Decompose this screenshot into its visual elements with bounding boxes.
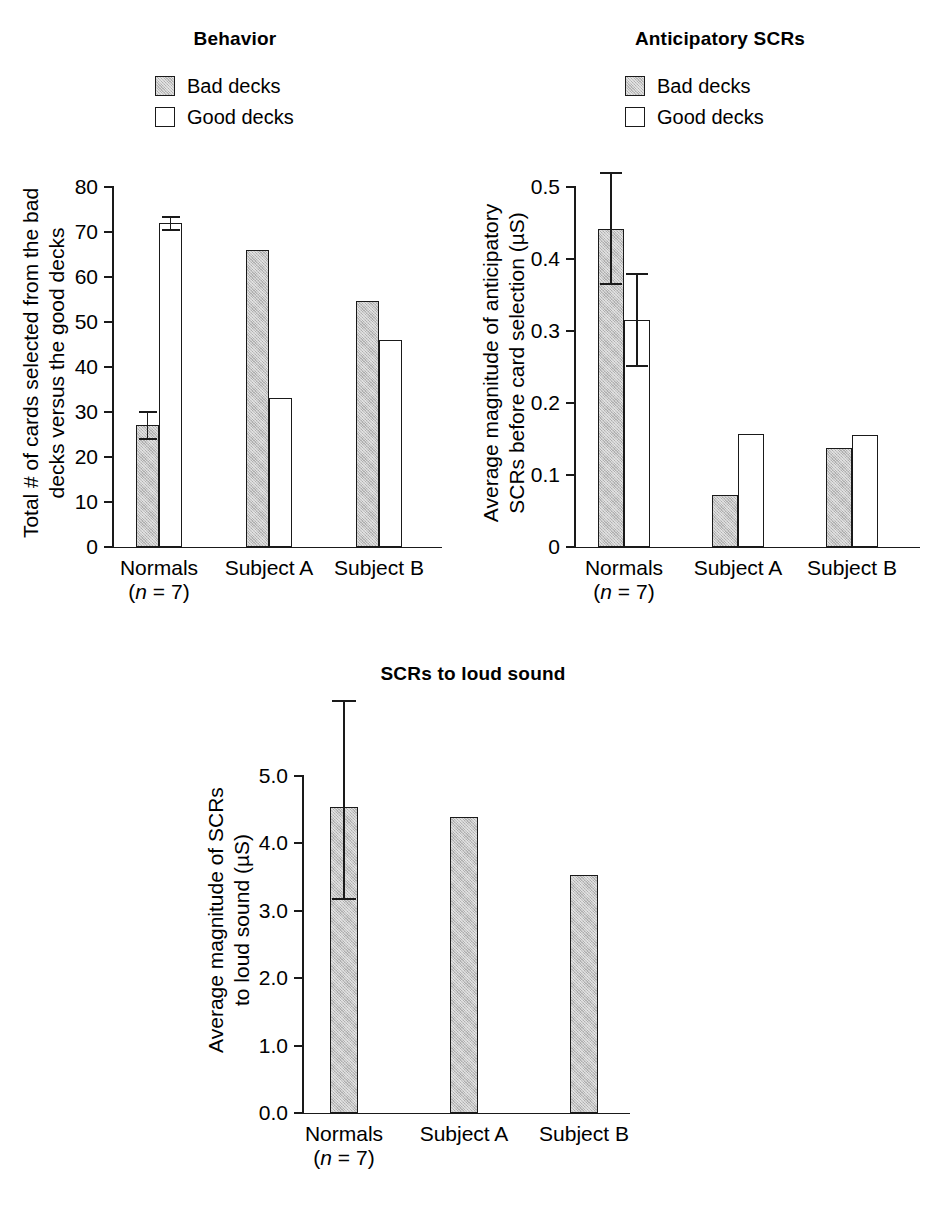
errorbar-stem	[636, 273, 638, 367]
y-tick-4.0	[294, 842, 302, 844]
bar-loud-sound-subject-a	[450, 817, 478, 1113]
y-tick-1.0	[294, 1045, 302, 1047]
errorbar-cap-top	[332, 700, 356, 702]
y-tick-label-60: 60	[54, 266, 98, 287]
sample-size-symbol: n	[320, 1146, 332, 1169]
errorbar-cap-bottom	[139, 438, 157, 440]
errorbar-cap-bottom	[162, 229, 180, 231]
y-tick-50	[104, 321, 112, 323]
errorbar-cap-bottom	[332, 898, 356, 900]
y-tick-0.3	[566, 330, 574, 332]
y-tick-30	[104, 411, 112, 413]
chart-panel-anticipatory-scrs: Anticipatory SCRs Bad decks Good decks A…	[470, 0, 946, 620]
errorbar-stem	[170, 216, 172, 230]
y-tick-label-0.4: 0.4	[494, 248, 560, 269]
x-category-label-subject-a: Subject A	[678, 556, 798, 580]
y-axis-line	[574, 186, 576, 548]
y-tick-40	[104, 366, 112, 368]
errorbar-cap-bottom	[600, 283, 622, 285]
y-tick-label-20: 20	[54, 446, 98, 467]
bar-loud-sound-subject-b	[570, 875, 598, 1113]
y-tick-label-1.0: 1.0	[220, 1035, 288, 1056]
plot-area-behavior: 0 10 20 30 40 50 60 70 80 Normals	[0, 0, 470, 620]
errorbar-cap-bottom	[626, 365, 648, 367]
errorbar-anticipatory-normals-bad	[598, 172, 624, 288]
x-category-label-subject-a: Subject A	[209, 556, 329, 580]
y-tick-label-0.2: 0.2	[494, 392, 560, 413]
x-category-label-normals: Normals (n = 7)	[564, 556, 684, 603]
y-tick-label-70: 70	[54, 221, 98, 242]
y-tick-label-4.0: 4.0	[220, 832, 288, 853]
x-category-sublabel-normals: (n = 7)	[564, 580, 684, 604]
sample-size-value: = 7)	[332, 1146, 375, 1169]
y-tick-label-80: 80	[54, 176, 98, 197]
y-tick-label-2.0: 2.0	[220, 967, 288, 988]
errorbar-cap-top	[162, 216, 180, 218]
y-tick-70	[104, 231, 112, 233]
plot-area-scrs-loud-sound: 0.0 1.0 2.0 3.0 4.0 5.0 Normals (n = 7) …	[0, 620, 946, 1223]
bar-behavior-subject-a-good	[269, 398, 292, 547]
y-axis-line	[302, 775, 304, 1114]
errorbar-cap-top	[600, 172, 622, 174]
sample-size-symbol: n	[135, 580, 147, 603]
bar-behavior-normals-good	[159, 223, 182, 547]
errorbar-stem	[343, 700, 345, 900]
y-tick-0	[104, 546, 112, 548]
x-category-label-normals: Normals (n = 7)	[284, 1122, 404, 1169]
bar-anticipatory-subject-a-good	[738, 434, 764, 547]
y-tick-label-0.5: 0.5	[494, 176, 560, 197]
y-tick-0.4	[566, 258, 574, 260]
bar-anticipatory-subject-a-bad	[712, 495, 738, 547]
plot-area-anticipatory-scrs: 0 0.1 0.2 0.3 0.4 0.5 Normals (n = 7) Su…	[470, 0, 946, 620]
y-tick-label-0.0: 0.0	[220, 1102, 288, 1123]
y-tick-2.0	[294, 977, 302, 979]
sample-size-value: = 7)	[147, 580, 190, 603]
errorbar-stem	[610, 172, 612, 285]
chart-panel-scrs-loud-sound: SCRs to loud sound Average magnitude of …	[0, 620, 946, 1223]
y-tick-label-0.1: 0.1	[494, 464, 560, 485]
y-tick-0.0	[294, 1112, 302, 1114]
sample-size-symbol: n	[600, 580, 612, 603]
y-tick-0.2	[566, 402, 574, 404]
errorbar-stem	[147, 411, 149, 439]
x-category-label-subject-b: Subject B	[792, 556, 912, 580]
y-tick-20	[104, 456, 112, 458]
y-tick-5.0	[294, 775, 302, 777]
x-category-label-subject-b: Subject B	[319, 556, 439, 580]
y-tick-60	[104, 276, 112, 278]
errorbar-cap-top	[139, 411, 157, 413]
errorbar-loud-sound-normals	[330, 700, 358, 903]
sample-size-value: = 7)	[612, 580, 655, 603]
y-tick-label-0.3: 0.3	[494, 320, 560, 341]
y-tick-3.0	[294, 910, 302, 912]
x-category-label-normals-text: Normals	[99, 556, 219, 580]
y-tick-label-30: 30	[54, 401, 98, 422]
x-category-label-subject-b: Subject B	[524, 1122, 644, 1146]
y-tick-label-5.0: 5.0	[220, 765, 288, 786]
y-tick-label-0.0: 0	[494, 536, 560, 557]
bar-anticipatory-subject-b-good	[852, 435, 878, 547]
bar-behavior-subject-b-good	[379, 340, 402, 547]
y-tick-label-50: 50	[54, 311, 98, 332]
y-tick-0.5	[566, 186, 574, 188]
bar-behavior-subject-a-bad	[246, 250, 269, 547]
chart-panel-behavior: Behavior Bad decks Good decks Total # of…	[0, 0, 470, 620]
x-category-label-normals-text: Normals	[564, 556, 684, 580]
y-tick-label-0: 0	[54, 536, 98, 557]
y-tick-10	[104, 501, 112, 503]
x-category-label-subject-a: Subject A	[404, 1122, 524, 1146]
y-tick-0.1	[566, 474, 574, 476]
y-tick-0.0	[566, 546, 574, 548]
x-category-sublabel-normals: (n = 7)	[284, 1146, 404, 1170]
x-category-sublabel-normals: (n = 7)	[99, 580, 219, 604]
errorbar-behavior-normals-bad	[136, 411, 159, 450]
y-tick-80	[104, 186, 112, 188]
x-category-label-normals: Normals (n = 7)	[99, 556, 219, 603]
y-tick-label-3.0: 3.0	[220, 900, 288, 921]
errorbar-anticipatory-normals-good	[624, 273, 650, 369]
x-category-label-normals-text: Normals	[284, 1122, 404, 1146]
errorbar-cap-top	[626, 273, 648, 275]
bar-behavior-subject-b-bad	[356, 301, 379, 547]
y-axis-line	[112, 186, 114, 548]
errorbar-behavior-normals-good	[159, 216, 182, 232]
